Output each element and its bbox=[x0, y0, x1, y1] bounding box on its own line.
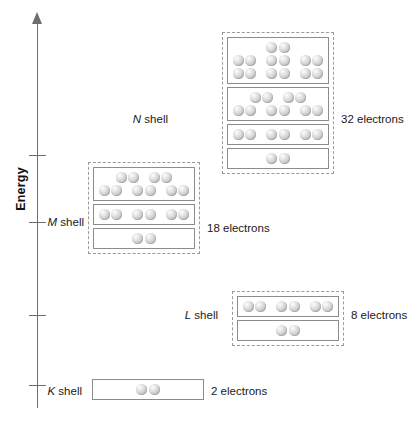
electron bbox=[233, 129, 244, 140]
electron bbox=[166, 209, 177, 220]
electron bbox=[266, 55, 277, 66]
electron bbox=[283, 92, 294, 103]
electron-row bbox=[228, 153, 328, 164]
electron bbox=[132, 233, 143, 244]
electron-pair bbox=[232, 68, 256, 79]
electron bbox=[145, 209, 156, 220]
electron bbox=[233, 68, 244, 79]
electron-pair bbox=[132, 209, 156, 220]
electron-pair bbox=[136, 384, 160, 395]
electron-row bbox=[228, 105, 328, 116]
electron-pair bbox=[276, 325, 300, 336]
electron bbox=[245, 105, 256, 116]
subshell-box bbox=[93, 228, 195, 249]
electron bbox=[322, 301, 333, 312]
electron-pair bbox=[98, 209, 122, 220]
electron-pair bbox=[232, 105, 256, 116]
electron bbox=[145, 233, 156, 244]
electron bbox=[132, 185, 143, 196]
electron bbox=[245, 55, 256, 66]
electron bbox=[300, 129, 311, 140]
electron-row bbox=[228, 42, 328, 53]
electron-pair bbox=[165, 209, 189, 220]
electron bbox=[310, 301, 321, 312]
electron bbox=[145, 185, 156, 196]
electron bbox=[266, 68, 277, 79]
electron bbox=[111, 185, 122, 196]
electron bbox=[300, 105, 311, 116]
electron bbox=[99, 185, 110, 196]
subshell-box bbox=[93, 204, 195, 225]
electron-row bbox=[238, 301, 338, 312]
electron-pair bbox=[232, 55, 256, 66]
electron-pair bbox=[132, 185, 156, 196]
shell-label-l: L shell bbox=[128, 309, 218, 321]
subshell-box bbox=[227, 124, 329, 145]
shell-letter: N bbox=[133, 113, 141, 125]
electron-count-l: 8 electrons bbox=[351, 309, 407, 321]
shell-group-l bbox=[232, 291, 344, 346]
electron bbox=[289, 325, 300, 336]
electron-count-n: 32 electrons bbox=[341, 113, 404, 125]
electron bbox=[178, 185, 189, 196]
electron-pair bbox=[266, 55, 290, 66]
electron bbox=[262, 92, 273, 103]
electron-pair bbox=[276, 301, 300, 312]
electron bbox=[289, 301, 300, 312]
subshell-box bbox=[92, 379, 204, 400]
electron-row bbox=[94, 172, 194, 183]
electron bbox=[279, 42, 290, 53]
shell-group-k bbox=[92, 379, 204, 400]
electron-row bbox=[228, 55, 328, 66]
axis-shaft bbox=[37, 22, 38, 408]
shell-letter: M bbox=[48, 216, 58, 228]
electron-pair bbox=[115, 172, 139, 183]
shell-label-suffix: shell bbox=[191, 309, 218, 321]
electron-pair bbox=[232, 129, 256, 140]
electron bbox=[312, 105, 323, 116]
electron-pair bbox=[266, 105, 290, 116]
axis-tick bbox=[29, 155, 46, 156]
subshell-box bbox=[227, 148, 329, 169]
electron bbox=[116, 172, 127, 183]
electron-row bbox=[238, 325, 338, 336]
electron bbox=[279, 153, 290, 164]
electron-pair bbox=[98, 185, 122, 196]
electron-row bbox=[228, 68, 328, 79]
electron-row bbox=[228, 129, 328, 140]
electron bbox=[166, 185, 177, 196]
electron bbox=[266, 105, 277, 116]
electron-pair bbox=[309, 301, 333, 312]
electron bbox=[266, 129, 277, 140]
shell-label-m: M shell bbox=[0, 216, 84, 228]
electron bbox=[245, 68, 256, 79]
electron bbox=[233, 105, 244, 116]
electron-pair bbox=[132, 233, 156, 244]
electron bbox=[295, 92, 306, 103]
subshell-box bbox=[93, 167, 195, 201]
electron bbox=[312, 68, 323, 79]
electron bbox=[266, 153, 277, 164]
electron bbox=[161, 172, 172, 183]
electron bbox=[276, 325, 287, 336]
electron-count-m: 18 electrons bbox=[207, 222, 270, 234]
electron-row bbox=[228, 92, 328, 103]
electron-pair bbox=[266, 129, 290, 140]
electron bbox=[266, 42, 277, 53]
electron bbox=[279, 55, 290, 66]
subshell-box bbox=[237, 320, 339, 341]
electron bbox=[111, 209, 122, 220]
electron-row bbox=[94, 233, 194, 244]
electron bbox=[312, 55, 323, 66]
electron bbox=[300, 68, 311, 79]
electron bbox=[136, 384, 147, 395]
electron bbox=[245, 129, 256, 140]
electron-pair bbox=[149, 172, 173, 183]
shell-label-suffix: shell bbox=[57, 216, 84, 228]
electron-pair bbox=[165, 185, 189, 196]
electron bbox=[250, 92, 261, 103]
electron-pair bbox=[266, 68, 290, 79]
electron-shell-energy-diagram: Energy N shell 32 electrons M shell 18 e… bbox=[0, 0, 409, 428]
electron bbox=[99, 209, 110, 220]
electron-pair bbox=[242, 301, 266, 312]
